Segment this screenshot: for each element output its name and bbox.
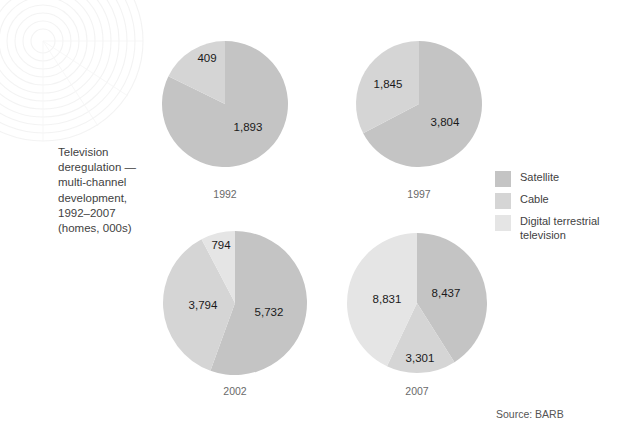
legend-item-satellite: Satellite bbox=[495, 171, 627, 187]
legend-swatch-satellite bbox=[495, 171, 511, 187]
pie-2007-value-satellite: 8,437 bbox=[432, 287, 461, 299]
pie-2007-value-cable: 3,301 bbox=[406, 352, 435, 364]
legend-swatch-cable bbox=[495, 193, 511, 209]
legend-swatch-digital-terrestrial-television bbox=[495, 215, 511, 231]
legend-item-cable: Cable bbox=[495, 193, 627, 209]
pie-2007-value-digital-terrestrial-television: 8,831 bbox=[373, 293, 402, 305]
legend: Satellite Cable Digital terrestrial tele… bbox=[495, 171, 627, 248]
legend-label-cable: Cable bbox=[520, 193, 549, 207]
legend-label-digital-terrestrial-television: Digital terrestrial television bbox=[520, 215, 627, 242]
source-note: Source: BARB bbox=[496, 408, 564, 420]
legend-item-digital-terrestrial-television: Digital terrestrial television bbox=[495, 215, 627, 242]
pie-year-label-2007: 2007 bbox=[0, 385, 633, 397]
legend-label-satellite: Satellite bbox=[520, 171, 559, 185]
